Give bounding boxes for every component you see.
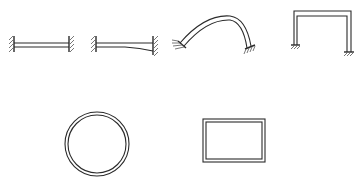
left-fixed-support-icon xyxy=(9,36,13,52)
closed-rect-frame xyxy=(203,119,265,162)
closed-ring xyxy=(65,112,129,176)
right-fixed-support-icon xyxy=(154,36,158,56)
structural-members-diagram xyxy=(0,0,361,190)
curved-arch xyxy=(172,16,255,54)
right-fixed-support-icon xyxy=(70,36,74,52)
left-fixed-support-icon xyxy=(91,36,95,52)
portal-frame xyxy=(291,11,354,56)
frame-right-base-support-icon xyxy=(344,53,353,56)
fixed-fixed-beam-tapered xyxy=(91,36,158,56)
frame-left-base-support-icon xyxy=(291,46,300,49)
fixed-fixed-beam-uniform xyxy=(9,36,74,52)
